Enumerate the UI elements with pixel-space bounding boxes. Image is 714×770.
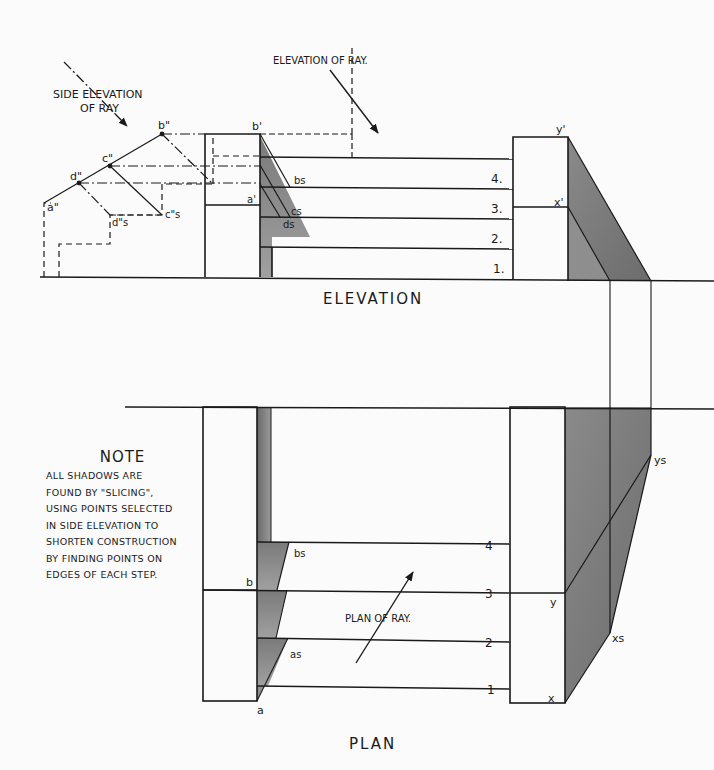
label-ds-dd: d"s: [112, 217, 128, 228]
right-block-elevation: [513, 137, 568, 281]
shadow-plan-step4: [257, 542, 289, 590]
note-line: BY FINDING POINTS ON: [40, 551, 205, 568]
plan-step-1-label: 1: [487, 683, 495, 697]
shadow-plan-step3: [257, 590, 287, 638]
label-y: y: [550, 596, 557, 609]
plan-step-4-label: 4: [485, 539, 493, 553]
side-elevation: [44, 48, 352, 277]
label-as: as: [290, 649, 301, 660]
plan-title: PLAN: [349, 735, 396, 753]
note-line: EDGES OF EACH STEP.: [40, 567, 205, 584]
label-a-prime: a': [247, 194, 256, 205]
elev-step-4: 4.: [491, 172, 502, 186]
label-b: b: [246, 576, 253, 589]
left-block-plan: [203, 407, 257, 701]
elev-step-2: 2.: [491, 232, 502, 246]
label-cs-elev: cs: [291, 206, 302, 217]
plan-step-4: [257, 542, 510, 544]
plan-ray-label: PLAN OF RAY.: [345, 613, 411, 624]
label-x-prime: x': [554, 196, 564, 209]
side-elevation-ray-label-1: SIDE ELEVATION: [53, 88, 143, 101]
side-elevation-ray-label-2: OF RAY: [80, 102, 119, 115]
plan-step-2: [257, 638, 510, 642]
plan-view: [125, 407, 714, 703]
shadow-plan-right: [565, 407, 651, 703]
label-c-dd: c": [102, 152, 113, 165]
step-3-line: [260, 187, 513, 189]
label-cs-dd: c"s: [165, 209, 180, 220]
label-bs: bs: [294, 548, 306, 559]
label-b-dd: b": [158, 119, 170, 132]
elev-step-1: 1.: [493, 262, 504, 276]
plan-step-2-label: 2: [485, 636, 493, 650]
note-line: SHORTEN CONSTRUCTION: [40, 534, 205, 551]
label-y-prime: y': [556, 123, 566, 136]
shadow-plan-strip: [257, 407, 271, 542]
label-ds-elev: ds: [283, 219, 295, 230]
elevation-ray-label: ELEVATION OF RAY.: [273, 55, 368, 66]
elevation-view: [40, 48, 714, 407]
plan-step-3-label: 3: [485, 587, 493, 601]
label-xs: xs: [612, 632, 625, 645]
elev-step-3: 3.: [491, 202, 502, 216]
note-line: ALL SHADOWS ARE: [40, 468, 205, 485]
right-block-plan: [510, 407, 565, 703]
elevation-ray: [330, 70, 378, 133]
label-bs-elev: bs: [294, 175, 306, 186]
note-heading: NOTE: [40, 448, 205, 466]
step-4-line: [260, 157, 513, 159]
elevation-title: ELEVATION: [323, 290, 423, 308]
label-d-dd: d": [70, 170, 82, 183]
note-line: IN SIDE ELEVATION TO: [40, 518, 205, 535]
note-line: USING POINTS SELECTED: [40, 501, 205, 518]
drawing: ELEVATION PLAN SIDE ELEVATION OF RAY ELE…: [0, 0, 714, 770]
label-a: a: [257, 704, 264, 717]
step-1-line: [260, 247, 513, 249]
label-b-prime: b': [252, 120, 262, 133]
label-a-dd: a": [47, 201, 59, 214]
shadow-plan-step2: [257, 638, 288, 686]
note-block: NOTE ALL SHADOWS ARE FOUND BY "SLICING",…: [40, 448, 205, 584]
plan-step-3: [203, 590, 510, 593]
label-x: x: [548, 692, 555, 705]
plan-step-1: [257, 686, 510, 689]
note-line: FOUND BY "SLICING",: [40, 485, 205, 502]
label-ys: ys: [654, 454, 667, 467]
